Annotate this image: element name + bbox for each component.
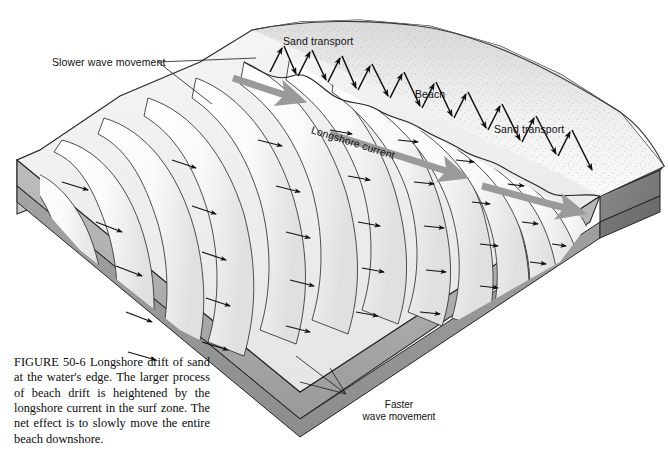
figure-caption: FIGURE 50-6 Longshore drift of sand at t…	[14, 355, 210, 447]
label-faster-wave-line1: Faster	[385, 399, 414, 410]
figure-stage: Slower wave movement Sand transport Beac…	[0, 0, 668, 471]
label-slower-wave-movement: Slower wave movement	[52, 56, 165, 68]
label-sand-transport-right: Sand transport	[494, 123, 564, 135]
label-sand-transport-top: Sand transport	[283, 35, 353, 47]
label-faster-wave-line2: wave movement	[362, 411, 436, 422]
label-beach: Beach	[415, 88, 445, 100]
